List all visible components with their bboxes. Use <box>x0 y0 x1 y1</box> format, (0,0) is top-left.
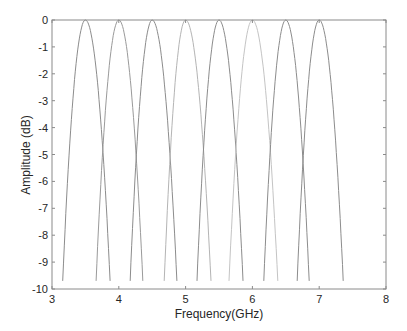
x-tick-label: 8 <box>383 293 389 305</box>
filter-response-curves <box>63 20 344 281</box>
curve-band-8 <box>297 20 343 281</box>
y-tick-label: -7 <box>38 202 48 214</box>
y-tick-label: -2 <box>38 68 48 80</box>
y-tick-label: -8 <box>38 229 48 241</box>
y-tick-label: -3 <box>38 95 48 107</box>
x-tick-label: 7 <box>316 293 322 305</box>
y-tick-label: -9 <box>38 256 48 268</box>
x-axis-label: Frequency(GHz) <box>175 307 264 321</box>
chart: 345678 0-1-2-3-4-5-6-7-8-9-10 Frequency(… <box>0 0 407 331</box>
curve-band-3 <box>130 20 177 281</box>
y-tick-label: -5 <box>38 149 48 161</box>
curve-band-7 <box>264 20 309 281</box>
y-tick-label: -1 <box>38 41 48 53</box>
y-axis-label: Amplitude (dB) <box>19 115 33 194</box>
x-tick-label: 3 <box>49 293 55 305</box>
y-tick-label: 0 <box>42 14 48 26</box>
x-tick-labels: 345678 <box>49 293 389 305</box>
x-tick-label: 4 <box>116 293 122 305</box>
x-tick-label: 6 <box>249 293 255 305</box>
x-tick-label: 5 <box>183 293 189 305</box>
y-tick-labels: 0-1-2-3-4-5-6-7-8-9-10 <box>32 14 48 295</box>
y-tick-label: -4 <box>38 122 48 134</box>
y-tick-label: -10 <box>32 283 48 295</box>
curve-band-2 <box>96 20 143 281</box>
y-tick-label: -6 <box>38 175 48 187</box>
curve-band-4 <box>164 20 211 281</box>
